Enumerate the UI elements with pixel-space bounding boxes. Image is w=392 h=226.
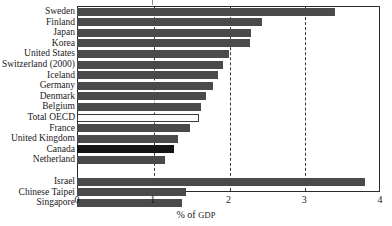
bar-rows [77, 6, 380, 192]
bar-row [77, 145, 380, 153]
category-label-denmark: Denmark [1, 92, 75, 101]
category-label-iceland: Iceland [1, 71, 75, 80]
category-label-israel: Israel [1, 177, 75, 186]
bar-row [77, 39, 380, 47]
bar-row [77, 124, 380, 132]
category-label-canada: Canada [1, 145, 75, 154]
bar-row [77, 61, 380, 69]
bar-row [77, 103, 380, 111]
bar-sweden [77, 8, 335, 16]
bar-japan [77, 29, 251, 37]
category-label-finland: Finland [1, 18, 75, 27]
x-axis-title-gdp: GDP [198, 211, 215, 220]
bar-france [77, 124, 190, 132]
bar-denmark [77, 92, 206, 100]
bar-chinese-taipei [77, 188, 186, 196]
bar-row [77, 135, 380, 143]
category-label-belgium: Belgium [1, 102, 75, 111]
top-tick-mark [152, 0, 153, 5]
xtick-2: 2 [219, 194, 239, 205]
bar-switzerland-2000 [77, 61, 223, 69]
bar-row [77, 114, 380, 122]
bar-united-kingdom [77, 135, 178, 143]
bar-row [77, 18, 380, 26]
category-label-chinese-taipei: Chinese Taipei [1, 188, 75, 197]
bar-chart: SwedenFinlandJapanKoreaUnited StatesSwit… [0, 0, 392, 226]
bar-finland [77, 18, 262, 26]
bar-row [77, 82, 380, 90]
bar-row [77, 92, 380, 100]
bar-row [77, 8, 380, 16]
bar-belgium [77, 103, 201, 111]
bar-row [77, 71, 380, 79]
x-axis-title: % of GDP [0, 209, 392, 220]
bar-germany [77, 82, 213, 90]
bar-row [77, 156, 380, 164]
bar-total-oecd [77, 114, 199, 122]
category-label-singapore: Singapore [1, 198, 75, 207]
category-label-sweden: Sweden [1, 7, 75, 16]
category-label-france: France [1, 124, 75, 133]
bar-united-states [77, 50, 229, 58]
bar-singapore [77, 199, 182, 207]
xtick-0: 0 [67, 194, 87, 205]
category-labels: SwedenFinlandJapanKoreaUnited StatesSwit… [0, 6, 75, 192]
bar-korea [77, 39, 250, 47]
category-label-japan: Japan [1, 28, 75, 37]
category-label-germany: Germany [1, 81, 75, 90]
category-label-united-kingdom: United Kingdom [1, 134, 75, 143]
category-label-korea: Korea [1, 39, 75, 48]
xtick-4: 4 [370, 194, 390, 205]
x-axis-title-prefix: % of [176, 209, 198, 220]
category-label-netherland: Netherland [1, 155, 75, 164]
category-label-total-oecd: Total OECD [1, 113, 75, 122]
bar-row [77, 50, 380, 58]
bar-row [77, 29, 380, 37]
bar-row [77, 178, 380, 186]
category-label-united-states: United States [1, 49, 75, 58]
xtick-3: 3 [294, 194, 314, 205]
bar-canada [77, 145, 174, 153]
bar-iceland [77, 71, 218, 79]
xtick-1: 1 [143, 194, 163, 205]
bar-netherland [77, 156, 165, 164]
category-label-switzerland-2000: Switzerland (2000) [1, 60, 75, 69]
bar-israel [77, 178, 365, 186]
